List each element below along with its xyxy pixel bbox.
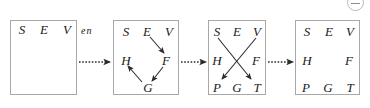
letter-g-stage-3: G xyxy=(232,81,241,94)
word-suffix-label: en xyxy=(81,25,92,36)
letter-f-stage-4: F xyxy=(345,54,353,67)
letter-s-stage-4: S xyxy=(304,25,311,38)
letter-p-stage-3: P xyxy=(213,81,221,94)
letter-v-stage-2: V xyxy=(165,25,173,38)
letter-s-stage-1: S xyxy=(19,23,26,36)
letter-g-stage-2: G xyxy=(143,81,152,94)
letter-e-stage-2: E xyxy=(143,25,151,38)
letter-h-stage-4: H xyxy=(302,54,311,67)
letter-h-stage-3: H xyxy=(212,54,221,67)
collapse-minus-icon[interactable] xyxy=(347,0,364,11)
letter-s-stage-3: S xyxy=(214,25,221,38)
letter-f-stage-2: F xyxy=(162,54,170,67)
letter-v-stage-1: V xyxy=(63,23,71,36)
letter-e-stage-1: E xyxy=(40,23,48,36)
letter-s-stage-2: S xyxy=(123,25,130,38)
letter-v-stage-3: V xyxy=(253,25,261,38)
letter-f-stage-3: F xyxy=(252,54,260,67)
diagram-canvas: en SEVSEVHFGSEVHFPGTSEVHFPGT xyxy=(0,0,370,108)
letter-t-stage-4: T xyxy=(346,81,353,94)
letter-p-stage-4: P xyxy=(302,81,310,94)
letter-e-stage-4: E xyxy=(325,25,333,38)
letter-g-stage-4: G xyxy=(323,81,332,94)
letter-e-stage-3: E xyxy=(233,25,241,38)
letter-t-stage-3: T xyxy=(253,81,260,94)
letter-v-stage-4: V xyxy=(346,25,354,38)
letter-h-stage-2: H xyxy=(121,54,130,67)
